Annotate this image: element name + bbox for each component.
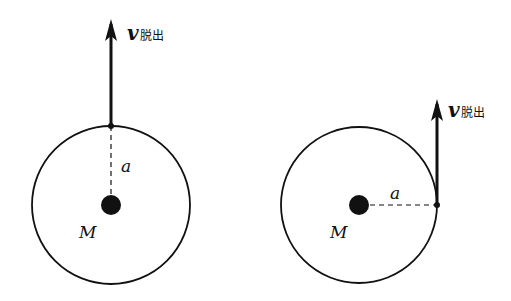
velocity-subscript: 脱出 bbox=[461, 105, 485, 120]
left-diagram: a M v 脱出 bbox=[32, 19, 190, 284]
right-diagram: a M v 脱出 bbox=[281, 98, 485, 283]
radius-label: a bbox=[121, 156, 131, 176]
mass-point bbox=[349, 195, 369, 215]
escape-velocity-diagram: a M v 脱出 a M v 脱出 bbox=[0, 0, 511, 301]
velocity-subscript: 脱出 bbox=[140, 28, 164, 43]
mass-label: M bbox=[329, 222, 348, 242]
radius-label: a bbox=[390, 183, 400, 203]
mass-label: M bbox=[78, 222, 97, 242]
velocity-symbol: v bbox=[127, 21, 139, 45]
mass-point bbox=[101, 195, 121, 215]
velocity-symbol: v bbox=[448, 98, 460, 122]
